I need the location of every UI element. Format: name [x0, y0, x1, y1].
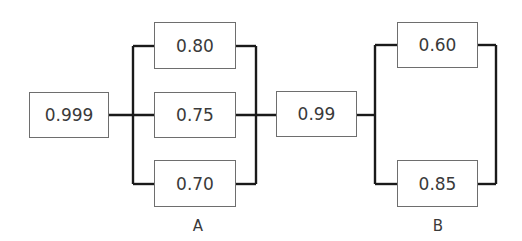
- group-label-b: B: [423, 217, 453, 235]
- component-a2: 0.75: [154, 92, 236, 138]
- component-b2: 0.85: [397, 160, 478, 207]
- component-a1: 0.80: [154, 22, 236, 69]
- component-c1: 0.999: [29, 92, 109, 138]
- group-label-a: A: [183, 217, 213, 235]
- component-a3: 0.70: [154, 160, 236, 207]
- component-c2: 0.99: [276, 91, 357, 137]
- component-b1: 0.60: [397, 22, 478, 68]
